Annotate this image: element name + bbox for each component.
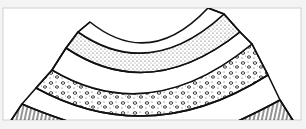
syncline-diagram (0, 0, 306, 129)
